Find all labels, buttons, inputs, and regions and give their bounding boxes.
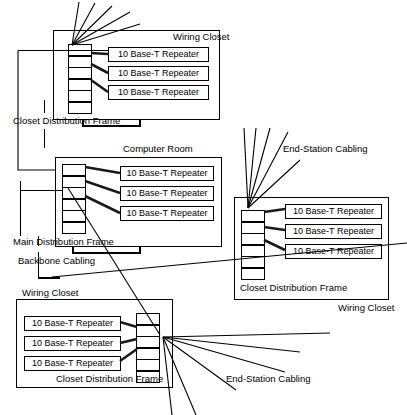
backbone-riser-top — [18, 51, 56, 171]
repeater-label-top-1: 10 Base-T Repeater — [109, 48, 208, 61]
repeater-label-cr-1: 10 Base-T Repeater — [121, 167, 213, 180]
repeater-label-cr-3: 10 Base-T Repeater — [121, 207, 213, 220]
label-wiring-closet-right: Wiring Closet — [338, 302, 395, 313]
patch-cords-top — [91, 53, 108, 92]
patch-cords-bottom — [120, 322, 137, 361]
label-backbone-cabling: Backbone Cabling — [18, 255, 95, 266]
repeater-label-top-2: 10 Base-T Repeater — [109, 67, 208, 80]
end-station-cables-top — [72, 2, 140, 45]
repeater-label-bottom-3: 10 Base-T Repeater — [25, 357, 120, 370]
closet-distribution-frame-top — [69, 45, 92, 114]
network-topology-diagram: Wiring Closet 10 Base-T Repeater 10 Base… — [0, 0, 407, 415]
repeater-label-top-3: 10 Base-T Repeater — [109, 86, 208, 99]
closet-distribution-frame-right — [242, 211, 265, 280]
label-wiring-closet-bottom: Wiring Closet — [22, 287, 79, 298]
label-main-distribution-frame: Main Distribution Frame — [13, 236, 114, 247]
label-closet-distribution-frame-right: Closet Distribution Frame — [240, 282, 347, 293]
repeater-label-bottom-1: 10 Base-T Repeater — [25, 317, 120, 330]
main-distribution-frame — [63, 165, 86, 234]
label-closet-distribution-frame-bottom: Closet Distribution Frame — [56, 373, 163, 384]
repeater-label-cr-2: 10 Base-T Repeater — [121, 187, 213, 200]
patch-cords-computer-room — [85, 167, 120, 213]
label-wiring-closet-top: Wiring Closet — [173, 31, 230, 42]
repeater-label-right-1: 10 Base-T Repeater — [286, 205, 381, 218]
end-station-cables-right — [244, 128, 300, 208]
repeater-label-right-3: 10 Base-T Repeater — [286, 245, 381, 258]
label-end-station-cabling-bottom: End-Station Cabling — [226, 373, 311, 384]
repeater-label-bottom-2: 10 Base-T Repeater — [25, 337, 120, 350]
label-end-station-cabling-right: End-Station Cabling — [283, 143, 368, 154]
label-computer-room: Computer Room — [123, 143, 193, 154]
patch-cords-right — [264, 209, 285, 250]
label-closet-distribution-frame-top: Closet Distribution Frame — [13, 115, 120, 126]
repeater-label-right-2: 10 Base-T Repeater — [286, 225, 381, 238]
